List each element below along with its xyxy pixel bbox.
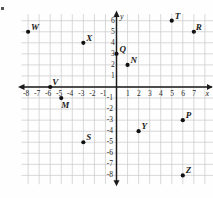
- data-point-n: [125, 63, 129, 67]
- point-label-m: M: [61, 101, 69, 110]
- point-label-w: W: [31, 23, 39, 32]
- y-tick-label-2: 2: [111, 61, 115, 69]
- point-label-v: V: [52, 78, 58, 87]
- y-tick-label-neg2: -2: [107, 105, 113, 113]
- x-tick-label-neg8: -8: [23, 90, 29, 98]
- data-point-w: [26, 30, 30, 34]
- x-tick-label-2: 2: [137, 90, 141, 98]
- x-tick-label-6: 6: [181, 90, 185, 98]
- point-label-t: T: [175, 12, 181, 21]
- coordinate-plane-figure: WXTRQNVMSYPZ-8-7-6-5-4-3-2-1123456765432…: [0, 0, 213, 198]
- x-tick-label-7: 7: [192, 90, 196, 98]
- data-point-q: [114, 52, 118, 56]
- point-label-y: Y: [142, 122, 148, 131]
- y-tick-label-neg7: -7: [107, 160, 113, 168]
- y-tick-label-6: 6: [111, 17, 115, 25]
- y-tick-label-neg1: -1: [107, 94, 113, 102]
- point-label-n: N: [131, 56, 138, 65]
- y-axis-name: y: [120, 13, 124, 21]
- y-tick-label-5: 5: [111, 28, 115, 36]
- x-tick-label-neg5: -5: [56, 90, 62, 98]
- point-label-p: P: [186, 111, 192, 120]
- data-point-s: [81, 140, 85, 144]
- point-label-x: X: [86, 34, 92, 43]
- y-tick-label-4: 4: [111, 39, 115, 47]
- point-label-s: S: [86, 133, 91, 142]
- x-tick-label-neg6: -6: [45, 90, 51, 98]
- point-label-z: Z: [186, 166, 192, 175]
- data-point-y: [137, 129, 141, 133]
- x-tick-label-4: 4: [159, 90, 163, 98]
- y-tick-label-neg6: -6: [107, 149, 113, 157]
- data-point-z: [181, 173, 185, 177]
- y-tick-label-neg3: -3: [107, 116, 113, 124]
- data-point-x: [81, 41, 85, 45]
- y-tick-label-3: 3: [111, 50, 115, 58]
- y-tick-label-neg4: -4: [107, 127, 113, 135]
- axes: [18, 11, 213, 187]
- data-point-t: [170, 19, 174, 23]
- y-tick-label-neg8: -8: [107, 171, 113, 179]
- x-tick-label-neg3: -3: [78, 90, 84, 98]
- x-tick-label-neg7: -7: [34, 90, 40, 98]
- x-tick-label-1: 1: [126, 90, 130, 98]
- x-tick-label-5: 5: [170, 90, 174, 98]
- x-tick-label-neg1: -1: [100, 90, 106, 98]
- x-tick-label-neg2: -2: [89, 90, 95, 98]
- x-axis-name: x: [206, 90, 210, 98]
- y-tick-label-neg5: -5: [107, 138, 113, 146]
- data-point-p: [181, 118, 185, 122]
- y-tick-label-1: 1: [111, 72, 115, 80]
- x-tick-label-neg4: -4: [67, 90, 73, 98]
- point-label-r: R: [196, 23, 202, 32]
- x-tick-label-3: 3: [148, 90, 152, 98]
- point-label-q: Q: [120, 45, 127, 54]
